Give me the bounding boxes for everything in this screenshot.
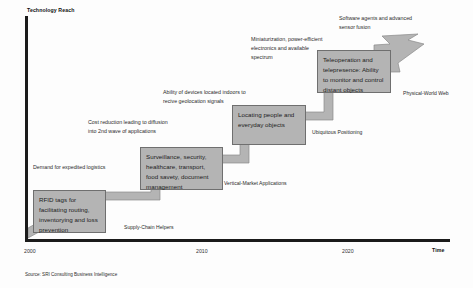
x-axis-line — [25, 239, 450, 242]
source-note: Source: SRI Consulting Business Intellig… — [25, 272, 117, 277]
chart-canvas: Technology Reach Time 2000 2010 2020 Dem… — [0, 0, 473, 288]
driver-label-0: Demand for expedited logistics — [33, 163, 113, 172]
tier-label-vertical-market-applications: Vertical-Market Applications — [224, 180, 287, 186]
tier-label-physical-world-web: Physical-World Web — [403, 90, 449, 96]
tier-label-supply-chain-helpers: Supply-Chain Helpers — [124, 224, 174, 230]
tier-label-ubiquitous-positioning: Ubiquitous Positioning — [312, 129, 362, 135]
y-axis-line — [25, 16, 28, 242]
x-tick-label-2010: 2010 — [196, 248, 208, 254]
driver-label-1: Cost reduction leading to diffusion into… — [88, 118, 168, 136]
y-axis-title: Technology Reach — [27, 7, 74, 13]
x-tick-label-2000: 2000 — [24, 248, 36, 254]
callout-box-1: Surveillance, security, healthcare, tran… — [140, 147, 223, 190]
x-axis-title: Time — [432, 247, 444, 253]
x-tick-label-2020: 2020 — [342, 248, 354, 254]
driver-label-4: Software agents and advanced sensor fusi… — [339, 14, 415, 32]
driver-label-2: Ability of devices located indoors to re… — [163, 88, 249, 106]
callout-box-2: Locating people and everyday objects — [232, 105, 306, 145]
callout-box-0: RFID tags for facilitating routing, inve… — [33, 190, 106, 233]
callout-box-3: Teleoperation and telepresence: Ability … — [317, 50, 391, 93]
